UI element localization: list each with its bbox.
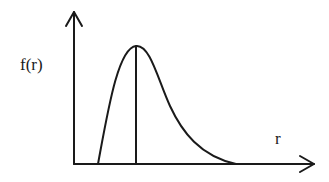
y-axis-label: f(r) bbox=[20, 55, 43, 74]
distribution-curve bbox=[98, 46, 236, 164]
x-axis-label: r bbox=[275, 129, 281, 148]
distribution-diagram: f(r) r bbox=[0, 0, 329, 182]
